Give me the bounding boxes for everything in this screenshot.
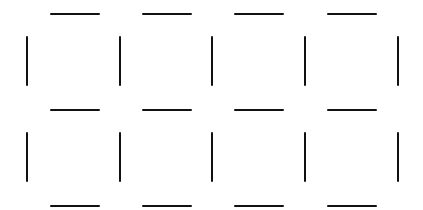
vertical-stick-r0-c2 [211,36,213,86]
horizontal-stick-r1-c1 [142,109,192,111]
horizontal-stick-r1-c0 [50,109,100,111]
vertical-stick-r0-c4 [397,36,399,86]
horizontal-stick-r2-c2 [234,205,284,207]
horizontal-stick-r0-c1 [142,13,192,15]
vertical-stick-r0-c1 [119,36,121,86]
horizontal-stick-r0-c2 [234,13,284,15]
horizontal-stick-r1-c2 [234,109,284,111]
vertical-stick-r1-c2 [211,132,213,182]
horizontal-stick-r1-c3 [327,109,377,111]
horizontal-stick-r0-c3 [327,13,377,15]
vertical-stick-r0-c3 [304,36,306,86]
vertical-stick-r0-c0 [26,36,28,86]
horizontal-stick-r2-c3 [327,205,377,207]
vertical-stick-r1-c3 [304,132,306,182]
horizontal-stick-r2-c1 [142,205,192,207]
vertical-stick-r1-c4 [397,132,399,182]
horizontal-stick-r2-c0 [50,205,100,207]
vertical-stick-r1-c0 [26,132,28,182]
horizontal-stick-r0-c0 [50,13,100,15]
vertical-stick-r1-c1 [119,132,121,182]
